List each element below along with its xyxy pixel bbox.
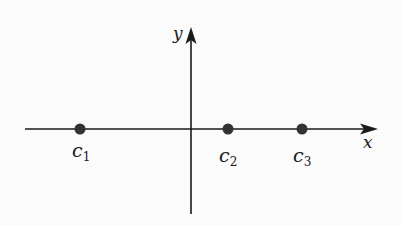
point-c2 <box>223 124 234 135</box>
label-c1: c1 <box>72 139 90 164</box>
y-axis-label: y <box>172 23 183 43</box>
point-c1 <box>75 124 86 135</box>
point-c3 <box>297 124 308 135</box>
label-c3: c3 <box>293 144 311 169</box>
x-axis-label: x <box>363 132 373 152</box>
coordinate-diagram: y x c1 c2 c3 <box>0 0 401 226</box>
label-c2: c2 <box>219 144 237 169</box>
